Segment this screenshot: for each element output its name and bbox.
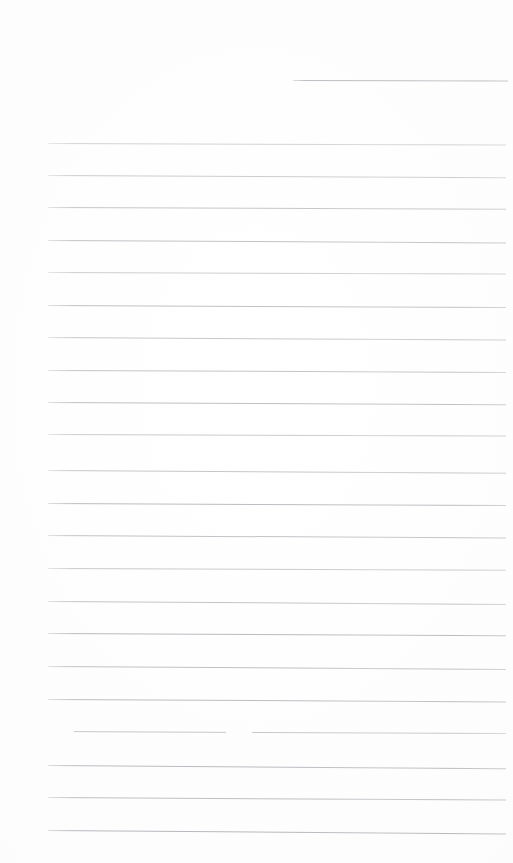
rule-line	[48, 765, 506, 769]
rule-line	[48, 143, 506, 146]
rule-line	[48, 337, 506, 341]
rule-line	[48, 305, 506, 308]
rule-line	[48, 731, 506, 734]
rule-line	[48, 633, 506, 636]
rule-line	[48, 601, 506, 605]
rule-line	[48, 470, 506, 474]
rule-line	[48, 699, 506, 702]
rule-line	[48, 666, 506, 670]
rule-line	[48, 434, 506, 436]
rule-line	[48, 402, 506, 405]
rule-line	[48, 830, 506, 834]
rule-line	[48, 207, 506, 210]
rule-line	[48, 797, 506, 801]
paper-surface	[0, 0, 513, 863]
rule-line	[48, 503, 506, 506]
rule-line-break	[226, 731, 252, 734]
rule-line	[48, 240, 506, 243]
rule-line	[48, 370, 506, 373]
rule-line	[48, 568, 506, 571]
rule-line	[48, 175, 506, 178]
notepad-page	[0, 0, 513, 863]
partial-rule-line	[293, 80, 508, 82]
rule-line	[48, 535, 506, 538]
rule-line	[48, 272, 506, 274]
